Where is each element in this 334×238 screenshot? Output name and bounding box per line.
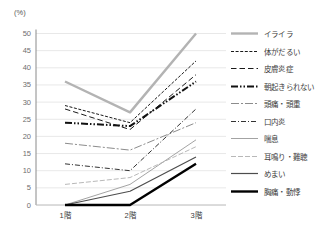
legend-label: 口内炎 xyxy=(264,116,286,127)
legend-line-swatch xyxy=(231,99,258,108)
legend-item: 朝起きられない xyxy=(231,78,314,96)
legend-label: 皮膚炎症 xyxy=(264,63,293,74)
y-tick-label: 35 xyxy=(23,80,31,89)
legend-line-swatch xyxy=(231,47,258,56)
x-tick-label: 3階 xyxy=(190,210,202,220)
legend-item: 胸痛・動悸 xyxy=(231,183,314,201)
legend-item: 喘息 xyxy=(231,130,314,148)
legend-line-swatch xyxy=(231,187,258,196)
legend-line-swatch xyxy=(231,117,258,126)
legend-line-swatch xyxy=(231,152,258,161)
legend-line-swatch xyxy=(231,82,258,91)
legend-item: 体がだるい xyxy=(231,43,314,61)
y-tick-label: 40 xyxy=(23,63,31,72)
y-tick-label: 15 xyxy=(23,149,31,158)
legend-line-swatch xyxy=(231,169,258,178)
y-tick-label: 5 xyxy=(27,183,31,192)
y-axis-unit-label: (%) xyxy=(14,8,26,17)
legend-line-swatch xyxy=(231,134,258,143)
y-tick-label: 50 xyxy=(23,29,31,38)
legend-label: 喘息 xyxy=(264,133,278,144)
legend-item: 耳鳴り・難聴 xyxy=(231,148,314,166)
legend-item: イライラ xyxy=(231,25,314,43)
series-line-8 xyxy=(65,157,196,205)
y-tick-label: 25 xyxy=(23,115,31,124)
legend-item: 口内炎 xyxy=(231,113,314,131)
x-tick-label: 2階 xyxy=(124,210,136,220)
legend-label: 胸痛・動悸 xyxy=(264,186,300,197)
y-tick-label: 10 xyxy=(23,166,31,175)
legend-line-swatch xyxy=(231,29,258,38)
legend-label: 頭痛・頭重 xyxy=(264,98,300,109)
series-line-0 xyxy=(65,34,196,113)
legend-label: めまい xyxy=(264,168,286,179)
legend-label: 体がだるい xyxy=(264,46,300,57)
series-line-7 xyxy=(65,147,196,185)
legend-line-swatch xyxy=(231,64,258,73)
legend-item: 皮膚炎症 xyxy=(231,60,314,78)
series-line-5 xyxy=(65,109,196,171)
legend: イライラ体がだるい皮膚炎症朝起きられない頭痛・頭重口内炎喘息耳鳴り・難聴めまい胸… xyxy=(231,25,314,200)
y-tick-label: 0 xyxy=(27,201,31,210)
y-tick-label: 20 xyxy=(23,132,31,141)
legend-item: 頭痛・頭重 xyxy=(231,95,314,113)
chart-screenshot: 05101520253035404550(%)1階2階3階 イライラ体がだるい皮… xyxy=(0,0,334,238)
legend-item: めまい xyxy=(231,165,314,183)
legend-label: 朝起きられない xyxy=(264,81,314,92)
y-tick-label: 30 xyxy=(23,98,31,107)
legend-label: 耳鳴り・難聴 xyxy=(264,151,307,162)
y-tick-label: 45 xyxy=(23,46,31,55)
legend-label: イライラ xyxy=(264,28,293,39)
x-tick-label: 1階 xyxy=(59,210,71,220)
